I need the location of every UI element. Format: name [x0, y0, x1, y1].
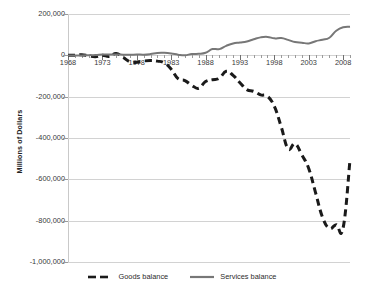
line-chart: Millions of Dollars 200,0000-200,000-400… [0, 0, 365, 294]
y-axis-tick-mark [63, 14, 68, 15]
y-axis-tick-mark [63, 221, 68, 222]
y-axis-tick-mark [63, 55, 68, 56]
series-line-services-balance [68, 27, 350, 56]
legend-label-goods-balance: Goods balance [118, 272, 168, 281]
solid-line-marker [190, 273, 216, 281]
series-layer [0, 0, 365, 294]
y-axis-tick-mark [63, 179, 68, 180]
y-axis-tick-mark [63, 97, 68, 98]
legend-label-services-balance: Services balance [220, 272, 276, 281]
legend-item-services-balance[interactable]: Services balance [190, 272, 276, 281]
y-axis-tick-mark [63, 138, 68, 139]
series-line-goods-balance [68, 53, 350, 233]
legend-item-goods-balance[interactable]: Goods balance [88, 272, 168, 281]
y-axis-tick-mark [63, 262, 68, 263]
chart-legend: Goods balance Services balance [0, 272, 365, 281]
dashed-line-marker [88, 273, 114, 281]
